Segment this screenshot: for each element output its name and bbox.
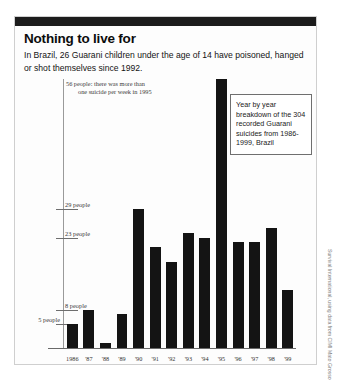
peak-annotation-line1: 56 people: there was more than <box>66 80 145 87</box>
y-tick-label: 5 people <box>38 316 60 323</box>
bar-cell <box>147 79 164 348</box>
page-subtitle: In Brazil, 26 Guarani children under the… <box>24 49 310 74</box>
x-tick-label: '91 <box>147 355 164 362</box>
bar <box>117 314 128 348</box>
x-tick-label: '94 <box>197 355 214 362</box>
x-tick-label: '87 <box>81 355 98 362</box>
x-tick-label: '97 <box>246 355 263 362</box>
header-rule <box>15 17 316 26</box>
peak-annotation: 56 people: there was more than one suici… <box>66 80 206 97</box>
bar-cell <box>180 79 197 348</box>
bar <box>199 238 210 348</box>
bar <box>150 247 161 348</box>
bar <box>183 233 194 348</box>
bar <box>233 242 244 348</box>
bar <box>166 262 177 348</box>
bar <box>133 209 144 348</box>
x-axis-labels: 1986'87'88'89'90'91'92'93'94'95'96'97'98… <box>64 355 296 362</box>
bar-cell <box>81 79 98 348</box>
bar <box>67 324 78 348</box>
bar-cell <box>213 79 230 348</box>
bar <box>282 290 293 348</box>
infographic-panel: Nothing to live for In Brazil, 26 Guaran… <box>14 16 317 365</box>
x-tick-label: '93 <box>180 355 197 362</box>
bar-cell <box>163 79 180 348</box>
bar <box>216 79 227 348</box>
source-credit: Survival International, using data from … <box>327 249 333 379</box>
bar <box>266 228 277 348</box>
x-tick-label: '90 <box>130 355 147 362</box>
x-tick-label: '89 <box>114 355 131 362</box>
x-tick-label: 1986 <box>64 355 81 362</box>
callout-box: Year by year breakdown of the 304 record… <box>230 94 312 155</box>
bar-cell <box>197 79 214 348</box>
bar-cell <box>97 79 114 348</box>
x-tick-label: '98 <box>263 355 280 362</box>
bar-cell <box>64 79 81 348</box>
bar <box>100 343 111 348</box>
x-tick-label: '99 <box>280 355 297 362</box>
bar <box>249 242 260 348</box>
x-axis-line <box>48 348 296 349</box>
peak-annotation-line2: one suicide per week in 1995 <box>66 88 206 96</box>
x-tick-label: '92 <box>163 355 180 362</box>
bar-cell <box>130 79 147 348</box>
x-tick-label: '96 <box>230 355 247 362</box>
x-tick-label: '95 <box>213 355 230 362</box>
x-tick-label: '88 <box>97 355 114 362</box>
bar-cell <box>114 79 131 348</box>
page-title: Nothing to live for <box>24 31 136 46</box>
bar <box>83 310 94 348</box>
